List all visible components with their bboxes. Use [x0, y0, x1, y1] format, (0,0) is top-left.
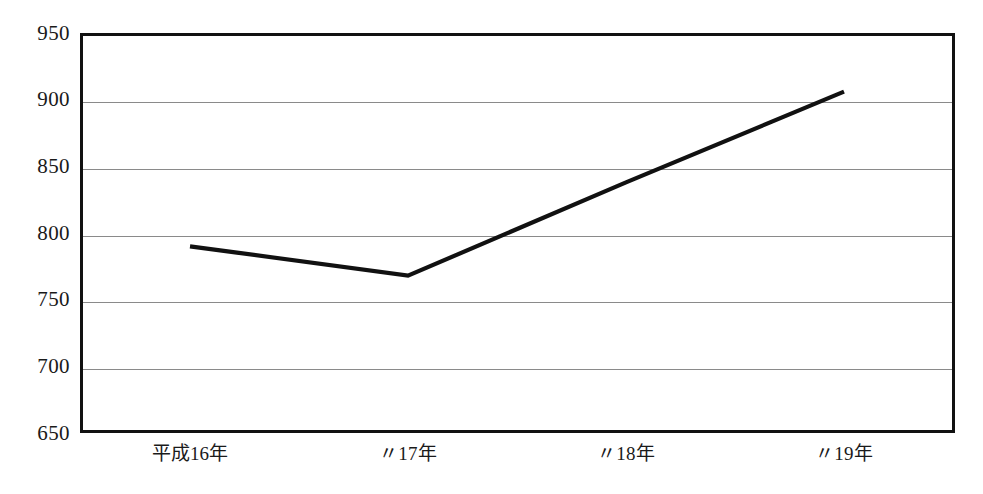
- series-layer: [80, 33, 955, 433]
- x-axis-tick-label: 〃17年: [379, 443, 437, 465]
- y-axis-tick-label: 950: [6, 23, 70, 44]
- y-axis-tick-label: 650: [6, 423, 70, 444]
- series-line: [190, 92, 844, 276]
- x-axis-tick-label: 平成16年: [152, 443, 229, 465]
- y-axis-tick-label: 750: [6, 289, 70, 310]
- y-axis-tick-label: 800: [6, 223, 70, 244]
- line-chart: 950 900 850 800 750 700 650 平成16年 〃17年 〃…: [0, 0, 983, 494]
- y-axis-tick-label: 700: [6, 356, 70, 377]
- y-axis-tick-label: 900: [6, 89, 70, 110]
- x-axis-tick-label: 〃18年: [597, 443, 655, 465]
- x-axis-tick-label: 〃19年: [815, 443, 873, 465]
- y-axis-tick-label: 850: [6, 156, 70, 177]
